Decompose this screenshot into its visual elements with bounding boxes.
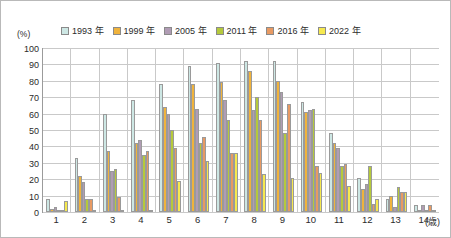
bar[interactable] bbox=[234, 153, 238, 212]
x-axis-tick-label: 11 bbox=[325, 214, 353, 230]
legend-swatch-icon bbox=[113, 27, 121, 35]
y-axis-tick-label: 40 bbox=[29, 142, 39, 152]
x-axis-tick-label: 7 bbox=[212, 214, 240, 230]
gridline: 0 bbox=[43, 212, 439, 213]
bar-group bbox=[43, 48, 71, 212]
y-axis-tick-label: 50 bbox=[29, 126, 39, 136]
bar[interactable] bbox=[177, 181, 181, 212]
x-axis-tick-label: 8 bbox=[240, 214, 268, 230]
legend-swatch-icon bbox=[164, 27, 172, 35]
legend-item-label: 2011 年 bbox=[227, 26, 258, 36]
legend-item[interactable]: 2011 年 bbox=[216, 26, 258, 36]
x-axis-tick-label: 4 bbox=[127, 214, 155, 230]
legend-item[interactable]: 2022 年 bbox=[318, 26, 361, 36]
x-axis-tick-label: 2 bbox=[70, 214, 98, 230]
x-axis-tick-label: 3 bbox=[99, 214, 127, 230]
x-axis-tick-label: 12 bbox=[353, 214, 381, 230]
x-axis-tick-label: 14 bbox=[410, 214, 438, 230]
y-axis-tick-label: 70 bbox=[29, 93, 39, 103]
legend-swatch-icon bbox=[266, 27, 274, 35]
y-axis-tick-label: 60 bbox=[29, 110, 39, 120]
chart-container: 1993 年1999 年2005 年2011 年2016 年2022 年 (%)… bbox=[0, 0, 451, 238]
y-axis-unit-label: (%) bbox=[17, 29, 30, 39]
bar-group bbox=[156, 48, 184, 212]
y-axis-tick-label: 80 bbox=[29, 77, 39, 87]
y-axis-tick-label: 10 bbox=[29, 192, 39, 202]
legend-item-label: 2005 年 bbox=[175, 26, 207, 36]
legend-item-label: 1993 年 bbox=[72, 26, 104, 36]
bar-group bbox=[241, 48, 269, 212]
bar[interactable] bbox=[121, 210, 125, 212]
y-axis-tick-label: 20 bbox=[29, 175, 39, 185]
y-axis-tick-label: 30 bbox=[29, 159, 39, 169]
bar[interactable] bbox=[64, 201, 68, 212]
bar[interactable] bbox=[347, 186, 351, 212]
bar-group bbox=[382, 48, 410, 212]
y-axis-tick-label: 90 bbox=[29, 60, 39, 70]
bar[interactable] bbox=[206, 161, 210, 212]
bar-group bbox=[128, 48, 156, 212]
legend-swatch-icon bbox=[61, 27, 69, 35]
bar-group bbox=[71, 48, 99, 212]
x-axis-tick-label: 5 bbox=[155, 214, 183, 230]
bar[interactable] bbox=[375, 199, 379, 212]
bar[interactable] bbox=[262, 174, 266, 212]
legend-item[interactable]: 1993 年 bbox=[61, 26, 104, 36]
bar-groups bbox=[43, 48, 439, 212]
legend-item[interactable]: 1999 年 bbox=[113, 26, 156, 36]
bar[interactable] bbox=[432, 210, 436, 212]
y-axis-tick-label: 100 bbox=[24, 44, 39, 54]
legend-item[interactable]: 2005 年 bbox=[164, 26, 207, 36]
legend-item-label: 2022 年 bbox=[329, 26, 361, 36]
x-axis-tick-label: 1 bbox=[42, 214, 70, 230]
bar-group bbox=[213, 48, 241, 212]
x-axis-tick-label: 10 bbox=[297, 214, 325, 230]
legend-swatch-icon bbox=[318, 27, 326, 35]
x-axis-tick-label: 9 bbox=[268, 214, 296, 230]
bar-group bbox=[354, 48, 382, 212]
bar[interactable] bbox=[146, 151, 150, 212]
bar-group bbox=[411, 48, 439, 212]
y-axis-tick-label: 0 bbox=[34, 208, 39, 218]
bar-group bbox=[298, 48, 326, 212]
bar[interactable] bbox=[93, 210, 97, 212]
bar-group bbox=[184, 48, 212, 212]
legend-item[interactable]: 2016 年 bbox=[266, 26, 309, 36]
x-axis-tick-label: 13 bbox=[381, 214, 409, 230]
legend-swatch-icon bbox=[216, 27, 224, 35]
legend-item-label: 2016 年 bbox=[277, 26, 309, 36]
bar-group bbox=[326, 48, 354, 212]
bar[interactable] bbox=[319, 173, 323, 212]
chart-legend: 1993 年1999 年2005 年2011 年2016 年2022 年 bbox=[61, 24, 361, 38]
bar[interactable] bbox=[291, 178, 295, 212]
x-axis-tick-labels: 1234567891011121314 bbox=[42, 214, 438, 230]
x-axis-tick-label: 6 bbox=[183, 214, 211, 230]
bar[interactable] bbox=[149, 210, 153, 212]
plot-area: 0102030405060708090100 bbox=[42, 48, 439, 213]
legend-item-label: 1999 年 bbox=[124, 26, 156, 36]
bar[interactable] bbox=[404, 192, 408, 212]
bar-group bbox=[100, 48, 128, 212]
bar-group bbox=[269, 48, 297, 212]
